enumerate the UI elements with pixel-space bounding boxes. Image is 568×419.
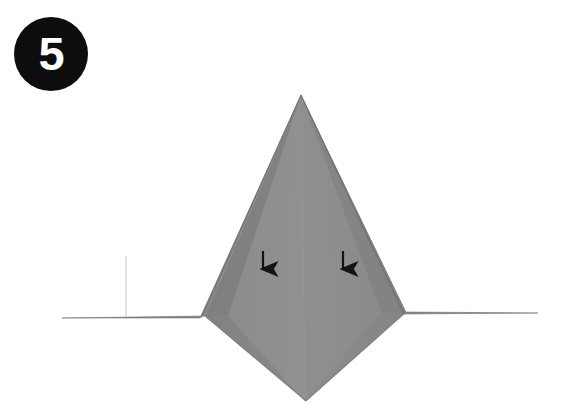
origami-step-diagram: 5 (0, 0, 568, 419)
step-number-badge: 5 (14, 17, 88, 91)
step-number-label: 5 (38, 30, 63, 77)
